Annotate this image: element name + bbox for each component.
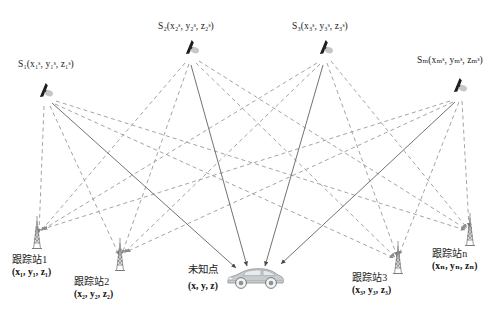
dashed-link-sm-gs1 (43, 101, 450, 229)
solid-link-sm-unknown (281, 102, 455, 264)
tracking-station-label-3: 跟踪站3 (x₃, y₃, z₃) (352, 272, 391, 296)
tracking-station-coords: (x₃, y₃, z₃) (352, 285, 391, 297)
dashed-link-s3-gs2 (124, 64, 320, 253)
dashed-link-sm-gs3 (399, 102, 459, 255)
satellite-icon (311, 38, 337, 66)
unknown-point-coords: (x, y, z) (188, 281, 218, 293)
dashed-link-s2-gs2 (122, 64, 189, 254)
tracking-station-label-2: 跟踪站2 (x₂, y₂, z₂) (74, 276, 113, 300)
car-icon (224, 262, 286, 296)
satellite-icon (445, 76, 471, 104)
dashed-link-s1-gs1 (39, 106, 44, 233)
tracking-station-coords: (x₂, y₂, z₂) (74, 289, 113, 301)
satellite-label-sm: Sₘ(xₘˢ, yₘˢ, zₘˢ) (417, 55, 483, 67)
satellite-label-s3: S₃(x₃ˢ, y₃ˢ, z₃ˢ) (292, 21, 348, 33)
solid-link-s2-unknown (191, 65, 247, 266)
dashed-link-s1-gs3 (55, 104, 394, 258)
dashed-link-s3-gs3 (327, 63, 397, 256)
tracking-station-name: 跟踪站2 (74, 276, 113, 289)
tracking-station-name: 跟踪站3 (352, 272, 391, 285)
unknown-point-name: 未知点 (188, 263, 218, 276)
diagram-canvas: S₁(x₁ˢ, y₁ˢ, z₁ˢ) S₂(x₂ˢ, y₂ˢ, z₂ˢ) S₃(x… (0, 0, 504, 320)
tracking-station-label-n: 跟踪站n (xₙ, yₙ, zₙ) (432, 248, 478, 272)
antenna-tower-icon (28, 215, 46, 253)
dashed-link-s1-gsn (56, 101, 465, 230)
satellite-label-s2: S₂(x₂ˢ, y₂ˢ, z₂ˢ) (158, 21, 214, 33)
tracking-station-name: 跟踪站n (432, 248, 478, 261)
satellite-icon (31, 81, 57, 109)
dashed-link-sm-gsn (462, 101, 469, 227)
satellite-label-s1: S₁(x₁ˢ, y₁ˢ, z₁ˢ) (18, 59, 74, 71)
dashed-links-group (39, 61, 469, 258)
antenna-tower-icon (111, 237, 129, 275)
dashed-link-sm-gs2 (126, 102, 453, 252)
dashed-link-s3-gs1 (42, 63, 317, 230)
tracking-station-label-1: 跟踪站1 (x₁, y₁, z₁) (12, 254, 51, 278)
tracking-station-coords: (x₁, y₁, z₁) (12, 267, 51, 279)
satellite-icon (177, 38, 203, 66)
antenna-tower-icon (461, 212, 479, 250)
dashed-link-s2-gsn (199, 61, 466, 229)
antenna-tower-icon (389, 240, 407, 278)
dashed-link-s2-gs1 (41, 63, 185, 231)
tracking-station-coords: (xₙ, yₙ, zₙ) (432, 261, 478, 273)
unknown-point-label: 未知点 (x, y, z) (188, 263, 218, 293)
tracking-station-name: 跟踪站1 (12, 254, 51, 267)
